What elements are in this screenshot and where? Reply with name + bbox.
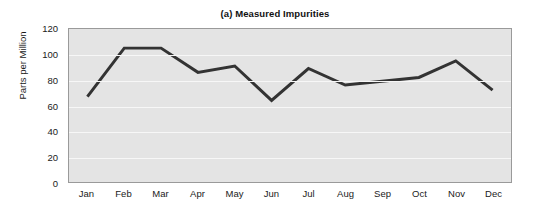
gridline: [69, 158, 511, 159]
plot-area: [68, 28, 512, 183]
y-axis-tick-label: 100: [42, 48, 58, 59]
x-axis-tick-labels: JanFebMarAprMayJunJulAugSepOctNovDec: [68, 188, 512, 206]
gridline: [69, 55, 511, 56]
x-axis-tick-label: Sep: [374, 188, 391, 199]
x-axis-tick-label: Jan: [79, 188, 94, 199]
chart-figure: (a) Measured Impurities Parts per Millio…: [0, 0, 550, 218]
gridline: [69, 132, 511, 133]
x-axis-tick-label: Apr: [190, 188, 205, 199]
x-axis-tick-label: Aug: [337, 188, 354, 199]
x-axis-tick-label: Oct: [412, 188, 427, 199]
x-axis-tick-label: Nov: [448, 188, 465, 199]
y-axis-tick-label: 120: [42, 23, 58, 34]
y-axis-tick-label: 0: [53, 178, 58, 189]
x-axis-tick-label: Mar: [152, 188, 168, 199]
x-axis-tick-label: Jun: [264, 188, 279, 199]
y-axis-tick-labels: 020406080100120: [0, 28, 64, 183]
gridline: [69, 107, 511, 108]
x-axis-tick-label: Dec: [485, 188, 502, 199]
x-axis-tick-label: Jul: [302, 188, 314, 199]
gridline: [69, 81, 511, 82]
y-axis-tick-label: 60: [47, 100, 58, 111]
y-axis-tick-label: 40: [47, 126, 58, 137]
x-axis-tick-label: Feb: [115, 188, 131, 199]
x-axis-tick-label: May: [226, 188, 244, 199]
y-axis-tick-label: 20: [47, 152, 58, 163]
chart-title: (a) Measured Impurities: [0, 8, 550, 19]
series-polyline: [87, 48, 492, 100]
y-axis-tick-label: 80: [47, 74, 58, 85]
